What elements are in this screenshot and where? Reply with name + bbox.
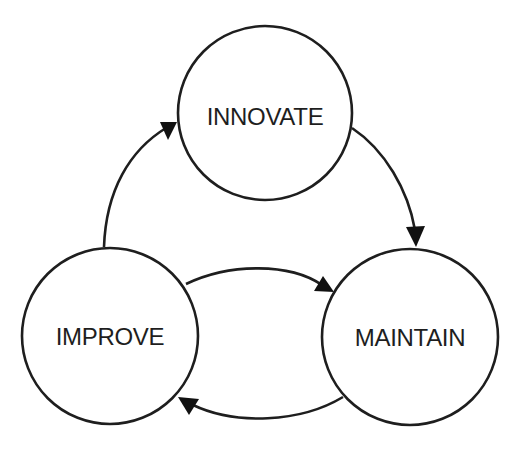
- node-maintain: MAINTAIN: [322, 249, 498, 425]
- cycle-diagram: INNOVATE IMPROVE MAINTAIN: [0, 0, 519, 451]
- node-improve: IMPROVE: [22, 248, 198, 424]
- node-label-improve: IMPROVE: [56, 323, 165, 350]
- edge-improve-to-innovate: [104, 128, 166, 247]
- node-innovate: INNOVATE: [178, 26, 352, 200]
- arrowhead-icon: [406, 226, 425, 247]
- edge-improve-to-maintain: [186, 268, 322, 285]
- node-label-maintain: MAINTAIN: [355, 324, 466, 351]
- node-label-innovate: INNOVATE: [207, 103, 324, 130]
- edge-maintain-to-improve: [193, 397, 343, 418]
- edge-innovate-to-maintain: [352, 128, 415, 230]
- arrowhead-icon: [314, 276, 334, 292]
